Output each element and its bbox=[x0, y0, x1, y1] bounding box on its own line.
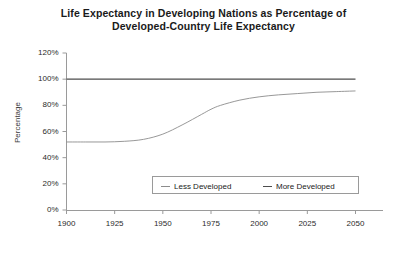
legend-line-marker-icon bbox=[263, 186, 272, 187]
x-axis-tick-label: 1900 bbox=[47, 219, 87, 228]
plot-area bbox=[0, 0, 407, 256]
y-axis-tick-label: 0% bbox=[15, 205, 59, 214]
legend-item-label: More Developed bbox=[276, 182, 335, 191]
y-axis-tick-label: 100% bbox=[15, 74, 59, 83]
legend-item-less-developed: Less Developed bbox=[161, 180, 231, 192]
x-axis-tick-label: 2050 bbox=[336, 219, 376, 228]
x-axis-tick-label: 1925 bbox=[95, 219, 135, 228]
y-axis-tick-label: 80% bbox=[15, 100, 59, 109]
x-axis-tick-label: 2025 bbox=[287, 219, 327, 228]
data-series-group bbox=[67, 79, 356, 142]
x-axis-tick-label: 2000 bbox=[239, 219, 279, 228]
chart-legend: Less Developed More Developed bbox=[152, 176, 359, 194]
y-axis-tick-label: 20% bbox=[15, 179, 59, 188]
x-axis-tick-label: 1950 bbox=[143, 219, 183, 228]
y-axis-tick-label: 40% bbox=[15, 153, 59, 162]
legend-item-more-developed: More Developed bbox=[263, 180, 335, 192]
y-axis-tick-label: 60% bbox=[15, 127, 59, 136]
series-line bbox=[67, 91, 356, 142]
legend-line-marker-icon bbox=[161, 186, 170, 187]
x-axis-tick-label: 1975 bbox=[191, 219, 231, 228]
y-axis-tick-label: 120% bbox=[15, 48, 59, 57]
legend-item-label: Less Developed bbox=[174, 182, 231, 191]
y-axis-ticks bbox=[63, 53, 67, 210]
chart-container: Life Expectancy in Developing Nations as… bbox=[0, 0, 407, 256]
